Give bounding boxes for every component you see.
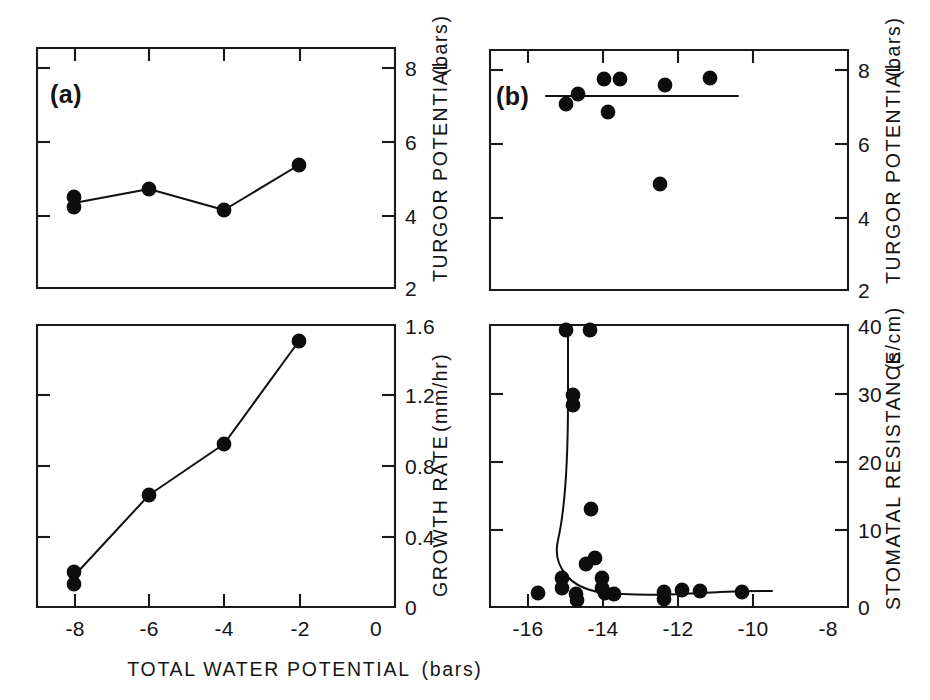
shared-xtick-minus8: -8: [65, 617, 84, 640]
stomatal-xtick-minus12: -12: [663, 617, 694, 640]
growth-yunits: (mm/hr): [429, 353, 451, 432]
data-point: [67, 200, 82, 215]
data-point: [579, 557, 594, 572]
stomatal-ytick-10: 10: [858, 519, 882, 542]
figure-background: [0, 0, 930, 700]
growth-ylabel: GROWTH RATE: [429, 435, 451, 597]
shared-xtick-0: 0: [370, 617, 382, 640]
panel-a-yunits: (bars): [429, 14, 451, 75]
data-point: [217, 437, 232, 452]
panel-a-ytick-8: 8: [405, 57, 417, 80]
figure-root: (a) 8 6 4 2 TURGOR POTENTIAL (bars): [0, 0, 930, 700]
panel-b-ytick-6: 6: [858, 133, 870, 156]
stomatal-ylabel: STOMATAL RESISTANCE: [882, 350, 904, 610]
panel-a-ylabel: TURGOR POTENTIAL: [429, 58, 451, 282]
panel-b-ylabel: TURGOR POTENTIAL: [882, 60, 904, 284]
panel-b-ytick-2: 2: [858, 279, 870, 302]
data-point: [613, 72, 628, 87]
data-point: [570, 593, 585, 608]
data-point: [703, 71, 718, 86]
data-point: [559, 97, 574, 112]
panel-a-ytick-2: 2: [405, 277, 417, 300]
scientific-figure: (a) 8 6 4 2 TURGOR POTENTIAL (bars): [0, 0, 930, 700]
panel-a-ytick-4: 4: [405, 205, 417, 228]
data-point: [566, 398, 581, 413]
panel-b-ytick-8: 8: [858, 59, 870, 82]
data-point: [142, 488, 157, 503]
shared-xtick-minus4: -4: [214, 617, 233, 640]
growth-ytick-1-6: 1.6: [405, 315, 435, 338]
stomatal-yunits: (s/cm): [882, 306, 904, 370]
panel-a-ytick-6: 6: [405, 131, 417, 154]
panel-a-label: (a): [50, 80, 82, 108]
data-point: [657, 592, 672, 607]
data-point: [735, 585, 750, 600]
stomatal-xtick-minus14: -14: [588, 617, 619, 640]
shared-xaxis-title-group: TOTAL WATER POTENTIAL (bars): [127, 658, 482, 680]
shared-xtick-minus6: -6: [139, 617, 158, 640]
data-point: [292, 158, 307, 173]
data-point: [693, 584, 708, 599]
data-point: [601, 105, 616, 120]
stomatal-ytick-40: 40: [858, 315, 882, 338]
data-point: [142, 182, 157, 197]
data-point: [675, 583, 690, 598]
stomatal-ytick-30: 30: [858, 383, 882, 406]
stomatal-ytick-0: 0: [858, 596, 870, 619]
shared-xaxis-title: TOTAL WATER POTENTIAL: [127, 658, 410, 680]
data-point: [653, 177, 668, 192]
growth-ytick-0: 0: [405, 596, 417, 619]
data-point: [531, 586, 546, 601]
data-point: [607, 587, 622, 602]
stomatal-xtick-minus10: -10: [738, 617, 769, 640]
data-point: [597, 72, 612, 87]
data-point: [292, 334, 307, 349]
data-point: [67, 577, 82, 592]
data-point: [583, 323, 598, 338]
data-point: [559, 323, 574, 338]
data-point: [658, 78, 673, 93]
data-point: [584, 502, 599, 517]
shared-xaxis-units: (bars): [421, 658, 482, 680]
data-point: [555, 581, 570, 596]
stomatal-xtick-minus16: -16: [513, 617, 544, 640]
data-point: [571, 87, 586, 102]
stomatal-ytick-20: 20: [858, 451, 882, 474]
panel-b-yunits: (bars): [882, 16, 904, 77]
stomatal-xtick-minus8: -8: [818, 617, 837, 640]
data-point: [217, 203, 232, 218]
panel-b-ytick-4: 4: [858, 207, 870, 230]
shared-xtick-minus2: -2: [290, 617, 309, 640]
panel-b-label: (b): [496, 82, 529, 110]
